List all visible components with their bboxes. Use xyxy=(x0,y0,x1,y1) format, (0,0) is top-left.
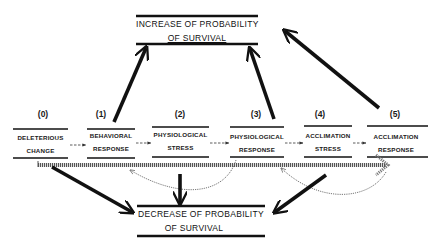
stage-number-0: (0) xyxy=(32,109,54,119)
stage-3-line1: PHYSIOLOGICAL xyxy=(230,130,284,143)
stage-1-line2: RESPONSE xyxy=(87,142,135,155)
stage-0-line2: CHANGE xyxy=(13,144,68,157)
stage-2-label: PHYSIOLOGICAL STRESS xyxy=(152,128,209,154)
increase-line1: INCREASE OF PROBABILITY xyxy=(136,17,258,31)
increase-box-label: INCREASE OF PROBABILITY OF SURVIVAL xyxy=(136,17,258,45)
stage-1-label: BEHAVIORAL RESPONSE xyxy=(87,129,135,155)
stage-5-line2: RESPONSE xyxy=(367,143,425,156)
stage-box-lines xyxy=(13,126,428,158)
increase-line2: OF SURVIVAL xyxy=(136,31,258,45)
stage-number-3: (3) xyxy=(245,109,267,119)
decrease-line1: DECREASE OF PROBABILITY xyxy=(137,207,265,221)
stage-number-5: (5) xyxy=(384,109,406,119)
stage-number-4: (4) xyxy=(309,109,331,119)
stage-3-label: PHYSIOLOGICAL RESPONSE xyxy=(230,130,284,156)
stage-4-line2: STRESS xyxy=(304,142,352,155)
stage-0-line1: DELETERIOUS xyxy=(13,131,68,144)
stage-5-line1: ACCLIMATION xyxy=(367,130,425,143)
stage-number-2: (2) xyxy=(169,109,191,119)
decrease-box-label: DECREASE OF PROBABILITY OF SURVIVAL xyxy=(137,207,265,235)
stage-3-line2: RESPONSE xyxy=(230,143,284,156)
stage-5-label: ACCLIMATION RESPONSE xyxy=(367,130,425,156)
stage-4-line1: ACCLIMATION xyxy=(304,129,352,142)
decrease-line2: OF SURVIVAL xyxy=(123,221,265,235)
stage-4-label: ACCLIMATION STRESS xyxy=(304,129,352,155)
stage-1-line1: BEHAVIORAL xyxy=(87,129,135,142)
stage-number-1: (1) xyxy=(90,109,112,119)
stage-2-line2: STRESS xyxy=(152,141,209,154)
stage-2-line1: PHYSIOLOGICAL xyxy=(152,128,209,141)
stage-0-label: DELETERIOUS CHANGE xyxy=(13,131,68,157)
